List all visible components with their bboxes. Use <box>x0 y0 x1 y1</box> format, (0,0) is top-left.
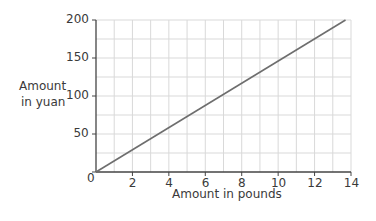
y-tick-label: 200 <box>66 12 89 26</box>
x-tick-label: 12 <box>307 176 322 190</box>
x-tick-label: 8 <box>238 176 246 190</box>
x-axis-label: Amount in pounds <box>172 187 282 201</box>
x-tick-label: 6 <box>202 176 210 190</box>
y-tick-label: 150 <box>66 50 89 64</box>
y-tick-label: 100 <box>66 88 89 102</box>
y-axis-label-line2: in yuan <box>21 95 65 109</box>
x-tick-label: 10 <box>271 176 286 190</box>
x-tick-label: 14 <box>344 176 359 190</box>
x-tick-label: 2 <box>129 176 137 190</box>
y-tick-label: 50 <box>73 126 88 140</box>
x-tick-label: 4 <box>165 176 173 190</box>
y-axis-label-line1: Amount <box>19 79 66 93</box>
origin-label: 0 <box>87 171 95 185</box>
